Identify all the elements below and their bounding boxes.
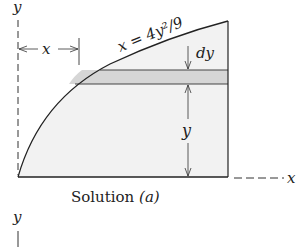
x-axis-label: x [287, 169, 296, 187]
caption-part: (a) [139, 188, 160, 206]
height-label: y [181, 121, 192, 140]
next-y-axis-label: y [12, 208, 22, 226]
y-axis-label: y [12, 0, 22, 16]
caption: Solution (a) [71, 188, 160, 206]
width-label: x [42, 40, 51, 58]
differential-strip [69, 70, 228, 84]
strip-label: dy [196, 44, 215, 62]
area-diagram: x dy y x = 4y²/9 y x Solution (a) y [0, 0, 304, 247]
caption-main: Solution [71, 188, 139, 206]
